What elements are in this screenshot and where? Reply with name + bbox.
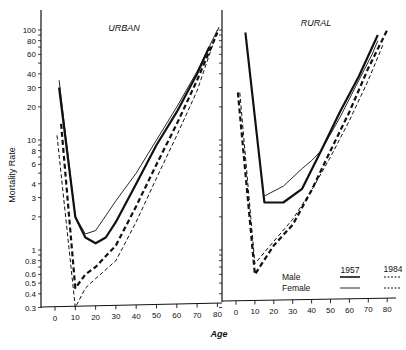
urban-x-tick-label: 0 xyxy=(53,314,58,323)
rural-x-tick-label: 70 xyxy=(364,305,373,314)
urban-x-tick-label: 60 xyxy=(172,311,181,320)
y-tick-label: 0.5 xyxy=(25,279,37,288)
urban-x-tick-label: 30 xyxy=(111,312,120,321)
urban-female-1957-line xyxy=(59,30,217,234)
urban-x-axis xyxy=(41,303,222,307)
y-tick-label: 10 xyxy=(27,136,36,145)
y-tick-label: 80 xyxy=(27,37,36,46)
y-tick-label: 2 xyxy=(32,213,37,222)
legend-row-female: Female xyxy=(282,283,311,293)
urban-male-1957-line xyxy=(59,47,209,243)
x-axis-label: Age xyxy=(209,329,227,339)
y-tick-label: 0.8 xyxy=(25,257,37,266)
y-tick-label: 4 xyxy=(32,180,37,189)
urban-x-tick-label: 20 xyxy=(91,313,100,322)
rural-x-tick-label: 40 xyxy=(307,306,316,315)
urban-x-tick-label: 10 xyxy=(71,313,80,322)
y-tick-label: 1 xyxy=(32,246,37,255)
y-tick-label: 0.6 xyxy=(25,270,37,279)
legend-row-male: Male xyxy=(282,272,301,282)
chart-canvas: 0.30.40.50.60.81234681020304060801000102… xyxy=(0,0,406,350)
rural-female-1984-line xyxy=(240,44,384,264)
y-tick-label: 100 xyxy=(23,26,37,35)
rural-x-tick-label: 10 xyxy=(250,307,259,316)
rural-male-1984-line xyxy=(238,30,387,274)
y-axis-label: Mortality Rate xyxy=(7,147,17,203)
mortality-chart: 0.30.40.50.60.81234681020304060801000102… xyxy=(0,0,406,350)
urban-x-tick-label: 80 xyxy=(213,310,222,319)
legend: 1957 1984 Male Female xyxy=(282,264,403,293)
y-tick-label: 3 xyxy=(32,194,37,203)
y-tick-label: 30 xyxy=(27,84,36,93)
axes: 0.30.40.50.60.81234681020304060801000102… xyxy=(23,10,396,323)
rural-x-tick-label: 30 xyxy=(288,307,297,316)
rural-x-tick-label: 50 xyxy=(326,306,335,315)
urban-x-tick-label: 50 xyxy=(152,311,161,320)
urban-x-tick-label: 70 xyxy=(193,311,202,320)
urban-female-1984-line xyxy=(57,25,219,307)
panel-title-rural: RURAL xyxy=(301,18,332,28)
panel-title-urban: URBAN xyxy=(108,23,140,33)
urban-male-1984-line xyxy=(61,33,217,289)
y-tick-label: 6 xyxy=(32,160,37,169)
y-tick-label: 40 xyxy=(27,70,36,79)
rural-x-tick-label: 80 xyxy=(383,305,392,314)
y-tick-label: 60 xyxy=(27,50,36,59)
legend-col-1957: 1957 xyxy=(341,265,360,275)
rural-x-tick-label: 60 xyxy=(345,306,354,315)
urban-x-tick-label: 40 xyxy=(132,312,141,321)
y-tick-label: 8 xyxy=(32,147,37,156)
y-tick-label: 0.4 xyxy=(25,290,37,299)
rural-x-axis xyxy=(222,298,396,301)
y-tick-label: 0.3 xyxy=(25,304,37,313)
y-tick-label: 20 xyxy=(27,103,36,112)
rural-x-tick-label: 0 xyxy=(234,308,239,317)
rural-x-tick-label: 20 xyxy=(269,307,278,316)
rural-male-1957-line xyxy=(245,33,377,203)
legend-col-1984: 1984 xyxy=(384,264,403,274)
